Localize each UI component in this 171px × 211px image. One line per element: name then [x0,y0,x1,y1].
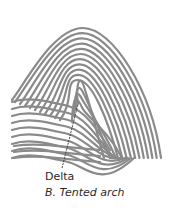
fingerprint-illustration [0,0,171,211]
delta-label: Delta [45,170,74,183]
ridge-lines [12,28,161,174]
pattern-caption: B. Tented arch [45,186,124,199]
